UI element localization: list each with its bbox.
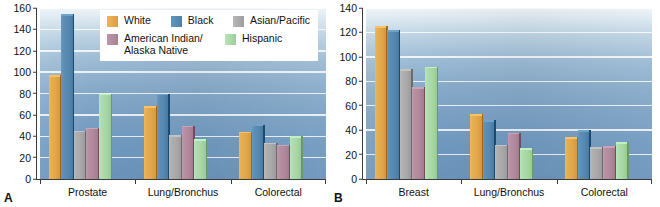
y-tick-label: 80 <box>19 88 33 99</box>
bar-cap <box>387 30 399 32</box>
bar-cap <box>375 26 387 28</box>
x-category-label: Prostate <box>40 179 135 198</box>
x-tick-mark <box>325 179 326 184</box>
bar-body <box>169 135 181 179</box>
bar[interactable] <box>61 14 73 179</box>
y-tick-20: 20 <box>19 152 37 163</box>
legend-item-american-indian[interactable]: American Indian/ Alaska Native <box>107 33 225 56</box>
bar[interactable] <box>252 125 264 180</box>
x-tick-mark <box>366 179 367 184</box>
bar-group <box>366 8 461 179</box>
bar[interactable] <box>169 135 181 179</box>
bar-edge <box>437 67 439 179</box>
bar[interactable] <box>616 142 628 179</box>
bar-cap <box>520 148 532 150</box>
legend-item-hispanic[interactable]: Hispanic <box>225 33 282 45</box>
legend-item-black[interactable]: Black <box>171 15 233 27</box>
x-category-lung-bronchus: Lung/Bronchus <box>135 179 230 198</box>
bar-body <box>387 30 399 179</box>
bar[interactable] <box>99 94 111 180</box>
bar-cap <box>182 126 194 128</box>
bar-cap <box>590 147 602 149</box>
bar[interactable] <box>239 132 251 179</box>
bar[interactable] <box>495 145 507 179</box>
x-tick-mark <box>461 179 462 184</box>
bar[interactable] <box>520 148 532 179</box>
bar-body <box>264 143 276 179</box>
y-tick-label: 120 <box>339 27 359 38</box>
bar-cap <box>264 143 276 145</box>
bar-body <box>99 94 111 180</box>
bar[interactable] <box>375 26 387 179</box>
bar-cap <box>157 94 169 96</box>
legend-label: American Indian/ Alaska Native <box>124 33 203 56</box>
y-tick-60: 60 <box>19 110 37 121</box>
bar[interactable] <box>590 147 602 179</box>
bar[interactable] <box>277 145 289 179</box>
x-category-label: Colorectal <box>231 179 326 198</box>
bar-group <box>461 8 556 179</box>
bar-body <box>520 148 532 179</box>
bar[interactable] <box>483 120 495 179</box>
bar-edge <box>301 136 303 179</box>
y-tick-label: 160 <box>13 3 33 14</box>
plot-area-b <box>366 8 652 179</box>
bar[interactable] <box>194 139 206 179</box>
bar[interactable] <box>578 130 590 179</box>
bar[interactable] <box>157 94 169 180</box>
legend-row: WhiteBlackAsian/Pacific <box>107 15 310 27</box>
y-tick-120: 120 <box>339 27 363 38</box>
y-tick-140: 140 <box>339 3 363 14</box>
bar-cap <box>508 133 520 135</box>
legend-item-white[interactable]: White <box>107 15 171 27</box>
x-axis-category-labels-b: BreastLung/BronchusColorectal <box>366 179 652 198</box>
bar[interactable] <box>470 114 482 179</box>
bar[interactable] <box>290 136 302 179</box>
y-tick-100: 100 <box>339 52 363 63</box>
bar-cap <box>252 125 264 127</box>
bar-cap <box>169 135 181 137</box>
legend-row: American Indian/ Alaska NativeHispanic <box>107 33 310 56</box>
bar-body <box>74 131 86 179</box>
x-tick-mark <box>135 179 136 184</box>
legend-label: Black <box>188 15 214 27</box>
bar-cap <box>400 69 412 71</box>
bar[interactable] <box>425 67 437 179</box>
bar[interactable] <box>74 131 86 179</box>
y-tick-80: 80 <box>19 88 37 99</box>
bar-body <box>144 106 156 179</box>
chart-panel-b: B 020406080100120140 BreastLung/Bronchus… <box>330 0 660 207</box>
y-tick-140: 140 <box>13 24 37 35</box>
bar[interactable] <box>264 143 276 179</box>
bar-cap <box>239 132 251 134</box>
bar-body <box>277 145 289 179</box>
bar[interactable] <box>144 106 156 179</box>
bar-cap <box>86 128 98 130</box>
bar-cap <box>194 139 206 141</box>
legend-item-asian[interactable]: Asian/Pacific <box>233 15 310 27</box>
bar-edge <box>206 139 208 179</box>
y-tick-label: 140 <box>339 3 359 14</box>
bar[interactable] <box>86 128 98 179</box>
grouped-bar-chart-figure: A 020406080100120140160 ProstateLung/Bro… <box>0 0 660 207</box>
y-tick-40: 40 <box>345 125 363 136</box>
bar[interactable] <box>387 30 399 179</box>
y-tick-label: 0 <box>25 174 33 185</box>
bar[interactable] <box>400 69 412 179</box>
bar[interactable] <box>182 126 194 179</box>
bar-body <box>86 128 98 179</box>
bar-cap <box>616 142 628 144</box>
legend-swatch <box>225 34 236 45</box>
y-tick-label: 20 <box>345 149 359 160</box>
bar-body <box>470 114 482 179</box>
bar[interactable] <box>603 146 615 179</box>
panel-letter-a: A <box>4 191 13 205</box>
bar-cap <box>144 106 156 108</box>
bar[interactable] <box>565 137 577 179</box>
legend-swatch <box>107 16 118 27</box>
bar-cap <box>470 114 482 116</box>
bar[interactable] <box>508 133 520 179</box>
bar[interactable] <box>412 87 424 179</box>
bar[interactable] <box>49 75 61 179</box>
bar-cap <box>603 146 615 148</box>
